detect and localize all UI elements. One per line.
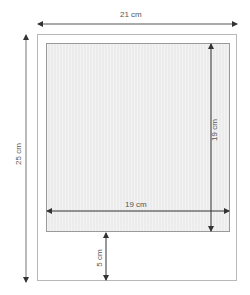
margin-5cm-label: 5 cm [96,249,104,266]
height-19cm-label: 19 cm [211,119,219,141]
width-19cm-label: 19 cm [125,201,147,209]
height-25cm-label: 25 cm [15,143,23,165]
width-21cm-label: 21 cm [120,11,142,19]
dimension-arrows [0,0,250,295]
